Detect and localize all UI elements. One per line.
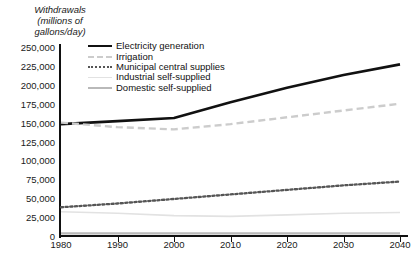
line-solid-gray-icon: [88, 83, 112, 93]
line-dashed-lightgray-icon: [88, 52, 112, 62]
caption-remnant: [0, 256, 418, 264]
chart-figure: Withdrawals (millions of gallons/day) 02…: [0, 0, 418, 264]
legend-item-label: Domestic self-supplied: [116, 83, 212, 93]
series-line: [61, 182, 400, 208]
chart-legend: Electricity generationIrrigationMunicipa…: [88, 41, 288, 93]
legend-item: Domestic self-supplied: [88, 83, 288, 93]
legend-item-label: Industrial self-supplied: [116, 72, 211, 82]
series-line: [61, 212, 400, 217]
legend-item: Industrial self-supplied: [88, 72, 288, 82]
line-dotted-darkgray-icon: [88, 62, 112, 72]
legend-item: Electricity generation: [88, 41, 288, 51]
legend-item-label: Electricity generation: [116, 41, 204, 51]
line-solid-thick-black-icon: [88, 41, 112, 51]
x-tick-mark: [118, 237, 119, 242]
chart-plot-area: [0, 0, 418, 264]
x-tick-mark: [174, 237, 175, 242]
x-tick-mark: [287, 237, 288, 242]
x-tick-mark: [231, 237, 232, 242]
line-solid-thin-verylightgray-icon: [88, 72, 112, 82]
series-line: [61, 104, 400, 130]
x-tick-mark: [400, 237, 401, 242]
x-tick-mark: [344, 237, 345, 242]
